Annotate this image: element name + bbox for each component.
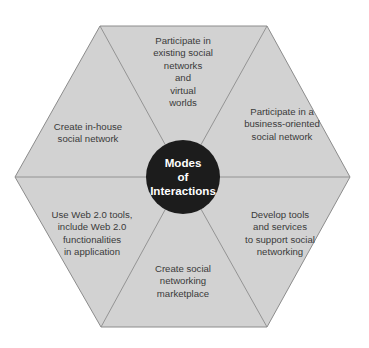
modes-of-interactions-diagram: Participate in existing social networks … [0,0,369,348]
segment-upper-right-label: Participate in a business-oriented socia… [244,106,320,143]
segment-top-label: Participate in existing social networks … [153,35,213,109]
segment-bottom-label: Create social networking marketplace [155,263,211,300]
center-title: Modes of Interactions [150,156,216,198]
segment-lower-right-label: Develop tools and services to support so… [245,209,315,259]
segment-lower-left-label: Use Web 2.0 tools, include Web 2.0 funct… [52,209,133,259]
segment-upper-left-label: Create in-house social network [54,121,122,146]
